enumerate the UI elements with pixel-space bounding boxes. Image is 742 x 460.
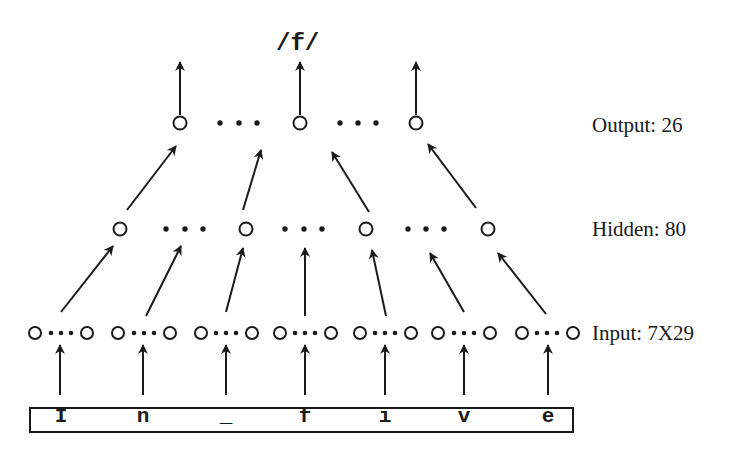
input-char: n [137, 405, 150, 428]
output-phoneme: /f/ [276, 30, 319, 57]
input-char: i [379, 405, 392, 428]
char-to-input-arrows [60, 345, 548, 395]
output-arrows [180, 62, 416, 115]
input-char: v [458, 405, 471, 428]
input-layer-label: Input: 7X29 [592, 321, 694, 346]
output-nodes [174, 117, 423, 130]
input-char: I [55, 405, 68, 428]
hidden-to-output-arrows [127, 144, 476, 212]
input-char: f [299, 405, 312, 428]
input-char: _ [220, 405, 233, 428]
input-to-hidden-arrows [61, 246, 546, 316]
input-char: e [542, 405, 555, 428]
hidden-layer-label: Hidden: 80 [592, 217, 686, 242]
output-layer-label: Output: 26 [592, 113, 682, 138]
